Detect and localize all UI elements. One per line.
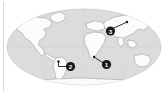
world-map-figure: 1 2 3 World map with three numbered loca… <box>0 0 167 94</box>
marker-1-circle[interactable] <box>102 60 111 69</box>
marker-2-circle[interactable] <box>66 62 75 71</box>
marker-3-leader-dot <box>126 21 128 23</box>
land-new-zealand <box>155 65 158 69</box>
land-antarctica <box>16 78 150 88</box>
marker-1-leader-dot <box>93 56 95 58</box>
marker-3-circle[interactable] <box>106 26 115 35</box>
marker-2-leader-dot <box>57 60 59 62</box>
world-map-svg: 1 2 3 <box>0 0 167 94</box>
